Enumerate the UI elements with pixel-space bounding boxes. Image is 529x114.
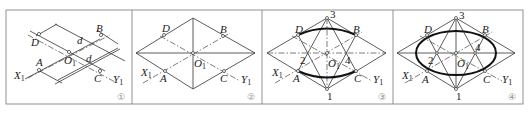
panel-1: X1 Y1 O1 A B C D d d ① xyxy=(13,22,125,102)
label-point-2: 2 xyxy=(428,54,434,66)
step-mark-3: ③ xyxy=(378,92,386,102)
label-c: C xyxy=(220,72,228,84)
label-x1: X1 xyxy=(271,66,283,80)
label-b: B xyxy=(482,23,489,35)
step-mark-2: ② xyxy=(247,92,255,102)
label-dim-d-2: d xyxy=(86,52,92,64)
rhombus xyxy=(136,18,255,89)
isometric-ellipse-construction-figure: X1 Y1 O1 A B C D d d ① X1 Y1 O1 A B C D … xyxy=(0,0,529,114)
label-b: B xyxy=(220,23,227,35)
label-o1: O1 xyxy=(64,54,76,68)
label-a: A xyxy=(35,56,43,68)
label-b: B xyxy=(353,23,360,35)
point-2 xyxy=(436,52,439,55)
label-x1: X1 xyxy=(13,69,25,83)
label-o1: O1 xyxy=(194,57,206,71)
label-y1: Y1 xyxy=(502,73,512,87)
label-point-1: 1 xyxy=(327,90,333,102)
label-point-4: 4 xyxy=(475,41,481,53)
panel-2: X1 Y1 O1 A B C D ② xyxy=(136,18,255,102)
label-point-2: 2 xyxy=(300,54,306,66)
label-point-3: 3 xyxy=(459,9,465,21)
label-y1: Y1 xyxy=(113,73,123,87)
label-dim-d-1: d xyxy=(77,34,83,46)
step-mark-4: ④ xyxy=(508,92,516,102)
label-x1: X1 xyxy=(401,69,413,83)
label-point-3: 3 xyxy=(330,8,336,20)
label-d: D xyxy=(30,36,39,48)
label-a: A xyxy=(421,73,429,85)
label-a: A xyxy=(292,72,300,84)
label-o1: O1 xyxy=(328,57,340,71)
point-o1 xyxy=(326,52,329,55)
point-3 xyxy=(326,17,329,20)
label-y1: Y1 xyxy=(241,73,251,87)
label-c: C xyxy=(94,72,102,84)
label-o1: O1 xyxy=(457,57,469,71)
label-a: A xyxy=(159,72,167,84)
point-o1 xyxy=(455,52,458,55)
label-d: D xyxy=(294,23,303,35)
point-o1 xyxy=(192,52,195,55)
label-x1: X1 xyxy=(140,66,152,80)
label-d: D xyxy=(423,23,432,35)
panel-3: X1 Y1 O1 A B C D 1 2 3 4 ③ xyxy=(267,8,386,102)
label-d: D xyxy=(161,22,170,34)
step-mark-1: ① xyxy=(117,92,125,102)
label-y1: Y1 xyxy=(373,73,383,87)
point-a xyxy=(37,68,40,71)
point-3 xyxy=(455,17,458,20)
panel-4: X1 Y1 O1 A B C D 1 2 3 4 ④ xyxy=(397,9,516,102)
label-b: B xyxy=(96,22,103,34)
label-c: C xyxy=(483,73,491,85)
label-c: C xyxy=(354,72,362,84)
label-point-4: 4 xyxy=(345,54,351,66)
parallel-line xyxy=(38,70,62,83)
label-point-1: 1 xyxy=(456,90,462,102)
